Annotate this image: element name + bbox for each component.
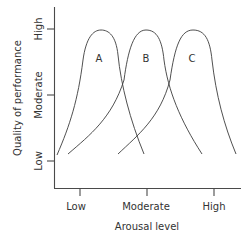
x-axis-title: Arousal level xyxy=(115,221,179,232)
y-axis-title: Quality of performance xyxy=(12,40,23,156)
y-tick-label-moderate: Moderate xyxy=(33,71,44,119)
y-tick-label-high: High xyxy=(33,18,44,41)
curve-label-c: C xyxy=(189,53,196,64)
chart: A B C Low Moderate High Arousal level Hi… xyxy=(0,0,249,246)
curve-c xyxy=(118,30,236,154)
curve-label-b: B xyxy=(143,53,150,64)
curve-label-a: A xyxy=(96,53,103,64)
x-tick-label-high: High xyxy=(203,201,226,212)
curve-b xyxy=(68,30,202,154)
y-tick-label-low: Low xyxy=(33,151,44,171)
curve-a xyxy=(57,30,144,155)
x-tick-label-low: Low xyxy=(66,201,86,212)
x-tick-label-moderate: Moderate xyxy=(122,201,170,212)
